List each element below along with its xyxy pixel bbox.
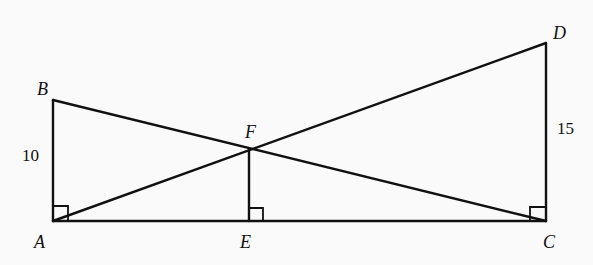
segment-BC <box>53 100 546 221</box>
point-label-A: A <box>33 232 46 252</box>
right-angle-marker-E <box>249 208 263 221</box>
length-label-CD: 15 <box>557 119 574 138</box>
point-label-E: E <box>239 232 251 252</box>
point-label-B: B <box>37 79 48 99</box>
diagram-svg: A B C D E F 10 15 <box>0 0 593 265</box>
point-label-D: D <box>552 23 566 43</box>
segment-AD <box>53 43 546 221</box>
length-label-AB: 10 <box>22 146 39 165</box>
point-label-C: C <box>543 232 556 252</box>
geometry-diagram: A B C D E F 10 15 <box>0 0 593 265</box>
point-label-F: F <box>244 122 257 142</box>
